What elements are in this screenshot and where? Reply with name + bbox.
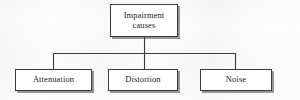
node-label-noise: Noise bbox=[226, 75, 246, 84]
node-label-impairment-causes: Impairment causes bbox=[124, 11, 165, 29]
node-noise: Noise bbox=[200, 69, 272, 91]
node-attenuation: Attenuation bbox=[15, 69, 92, 91]
node-distortion: Distortion bbox=[108, 69, 178, 91]
node-impairment-causes: Impairment causes bbox=[110, 4, 178, 37]
node-label-distortion: Distortion bbox=[125, 75, 160, 84]
impairment-causes-diagram: Impairment causes Attenuation Distortion… bbox=[0, 0, 300, 100]
node-label-attenuation: Attenuation bbox=[33, 75, 74, 84]
